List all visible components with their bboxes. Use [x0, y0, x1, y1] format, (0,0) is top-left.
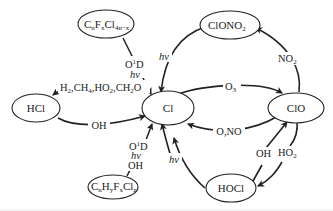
label-hocl-to-cl: hv	[168, 153, 182, 165]
svg-text:O,NO: O,NO	[216, 126, 242, 137]
reaction-cycle-diagram: CnFxCl4n−x ClONO2 HCl Cl ClO CnHyFxClz H…	[0, 0, 333, 211]
node-cfc: CnFxCl4n−x	[78, 10, 134, 38]
node-clono2: ClONO2	[200, 11, 260, 39]
label-cl-to-clo: O3	[223, 79, 241, 94]
svg-text:CnHyFxClz: CnHyFxClz	[91, 180, 136, 194]
label-clo-to-hocl: HO2	[277, 146, 299, 160]
svg-text:HOCl: HOCl	[218, 182, 244, 194]
node-clo: ClO	[268, 93, 324, 123]
svg-text:OH: OH	[128, 160, 144, 171]
edge-hocl-to-clo-upper	[266, 122, 287, 148]
svg-text:OH: OH	[256, 148, 272, 159]
svg-text:HCl: HCl	[27, 102, 45, 114]
svg-text:Cl: Cl	[163, 102, 173, 114]
edge-hocl-to-clo	[253, 165, 262, 181]
label-hcl-to-cl: OH	[88, 119, 110, 131]
label-clono2-to-cl: hv	[158, 50, 172, 62]
node-cl: Cl	[142, 91, 194, 125]
label-cfc-to-cl: O1D hv	[124, 56, 146, 80]
edge-clo-to-hocl	[290, 120, 297, 146]
cropped-caption-edge	[0, 208, 333, 211]
node-hcfc: CnHyFxClz	[88, 175, 138, 199]
svg-text:H2,CH4,HO2,CH2O: H2,CH4,HO2,CH2O	[60, 82, 142, 95]
label-cl-to-hcl: H2,CH4,HO2,CH2O	[58, 80, 150, 95]
svg-text:ClO: ClO	[287, 102, 305, 114]
node-hcl: HCl	[12, 94, 60, 122]
svg-text:hv: hv	[159, 51, 169, 62]
svg-text:OH: OH	[91, 120, 107, 131]
label-hcfc-to-cl: O1D hv OH	[128, 139, 150, 171]
edge-hcfc-to-cl-upper	[146, 124, 152, 140]
label-clo-to-cl: O,NO	[213, 125, 245, 137]
label-clo-to-clono2: NO2	[277, 52, 299, 66]
svg-text:hv: hv	[169, 154, 179, 165]
svg-text:hv: hv	[130, 69, 140, 80]
label-hocl-to-clo: OH	[254, 147, 276, 160]
node-hocl: HOCl	[206, 174, 256, 202]
svg-text:ClONO2: ClONO2	[208, 19, 246, 33]
